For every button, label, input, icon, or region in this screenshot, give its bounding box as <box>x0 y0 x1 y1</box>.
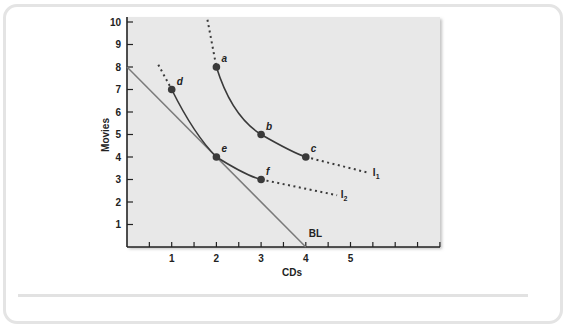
point-label-d: d <box>177 76 184 87</box>
point-label-c: c <box>311 143 317 154</box>
x-tick-label: 5 <box>348 253 354 264</box>
x-axis-title: CDs <box>282 267 302 278</box>
y-axis-title: Movies <box>100 118 111 152</box>
point-a <box>213 63 221 71</box>
y-tick-label: 8 <box>115 62 121 73</box>
y-tick-label: 7 <box>115 84 121 95</box>
point-d <box>168 86 176 94</box>
y-tick-label: 2 <box>115 197 121 208</box>
x-tick-label: 2 <box>214 253 220 264</box>
x-tick-label: 1 <box>169 253 175 264</box>
point-f <box>257 176 265 184</box>
y-tick-label: 1 <box>115 219 121 230</box>
y-tick-label: 3 <box>115 174 121 185</box>
x-tick-label: 3 <box>258 253 264 264</box>
y-tick-label: 4 <box>115 152 121 163</box>
point-c <box>302 153 310 161</box>
point-label-b: b <box>266 121 272 132</box>
point-e <box>213 153 221 161</box>
y-tick-label: 5 <box>115 129 121 140</box>
y-tick-label: 10 <box>110 17 122 28</box>
point-label-e: e <box>221 143 227 154</box>
y-tick-label: 9 <box>115 39 121 50</box>
plot-area <box>127 17 440 247</box>
budget-line-label: BL <box>309 228 322 239</box>
point-label-a: a <box>221 53 227 64</box>
y-tick-label: 6 <box>115 107 121 118</box>
x-tick-label: 4 <box>303 253 309 264</box>
point-b <box>257 131 265 139</box>
